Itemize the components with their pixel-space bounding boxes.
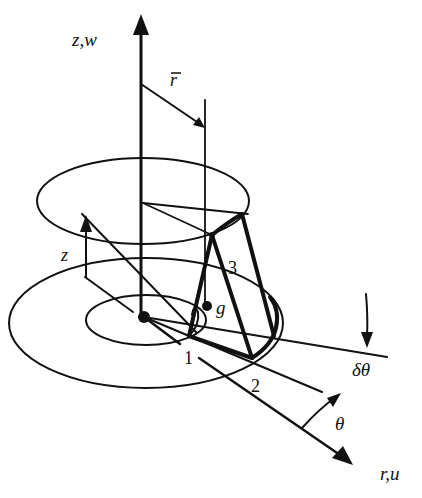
point-3-label: 3 <box>228 258 237 278</box>
edge-3-1 <box>189 235 212 336</box>
delta-theta-label: δθ <box>352 359 370 380</box>
r-axis <box>199 358 340 455</box>
lower-chord <box>0 358 252 382</box>
cylindrical-element-diagram: z,w r z 1 2 3 g δθ θ r,u <box>0 0 422 498</box>
point-1-label: 1 <box>184 348 193 368</box>
delta-theta-ref-line <box>144 317 387 357</box>
upper-arc-3 <box>212 214 242 235</box>
theta-label: θ <box>335 413 344 434</box>
point-3-marker <box>209 232 215 238</box>
upper-radius-line-b <box>143 203 212 235</box>
z-axis-arrowhead <box>133 14 149 35</box>
r-bar-arrow <box>141 84 200 124</box>
point-2-label: 2 <box>251 376 260 396</box>
z-w-axis-label: z,w <box>71 29 97 50</box>
r-axis-arrowhead <box>332 446 353 465</box>
delta-theta-arrow <box>366 294 367 336</box>
r-bar-arrowhead <box>193 117 205 128</box>
z-height-label: z <box>60 245 68 265</box>
theta-arrowhead <box>327 393 341 407</box>
r-u-axis-label: r,u <box>380 463 400 484</box>
centroid-label: g <box>216 297 226 318</box>
upper-radius-line-a <box>143 203 248 214</box>
z-dimension-base <box>85 277 133 312</box>
origin-point <box>138 311 150 323</box>
centroid-point <box>202 301 212 311</box>
edge-top-2 <box>242 214 274 336</box>
delta-theta-arrowhead <box>361 332 373 348</box>
